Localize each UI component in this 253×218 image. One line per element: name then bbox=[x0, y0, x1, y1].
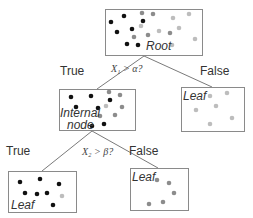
leaf-bottom-right-label: Leaf bbox=[132, 170, 157, 184]
leaf-bottom-left: Leaf bbox=[9, 172, 77, 213]
internal-condition: X₂ > β? bbox=[81, 146, 113, 157]
leaf-right-label: Leaf bbox=[183, 89, 208, 103]
root-label: Root bbox=[146, 39, 172, 53]
leaf-right: Leaf bbox=[182, 88, 245, 132]
leaf-bottom-left-label: Leaf bbox=[11, 198, 36, 212]
root-true-label: True bbox=[60, 64, 85, 78]
internal-node: Internal node bbox=[60, 90, 136, 133]
tree-svg: Root True X₁ > α? False Internal node bbox=[0, 0, 253, 218]
root-false-label: False bbox=[200, 64, 230, 78]
internal-false-label: False bbox=[129, 144, 159, 158]
decision-tree-diagram: Root True X₁ > α? False Internal node bbox=[0, 0, 253, 218]
internal-label-line2: node bbox=[67, 118, 94, 132]
root-node: Root bbox=[106, 10, 203, 56]
root-condition: X₁ > α? bbox=[110, 63, 143, 74]
internal-true-label: True bbox=[6, 144, 31, 158]
leaf-bottom-right: Leaf bbox=[131, 169, 189, 211]
